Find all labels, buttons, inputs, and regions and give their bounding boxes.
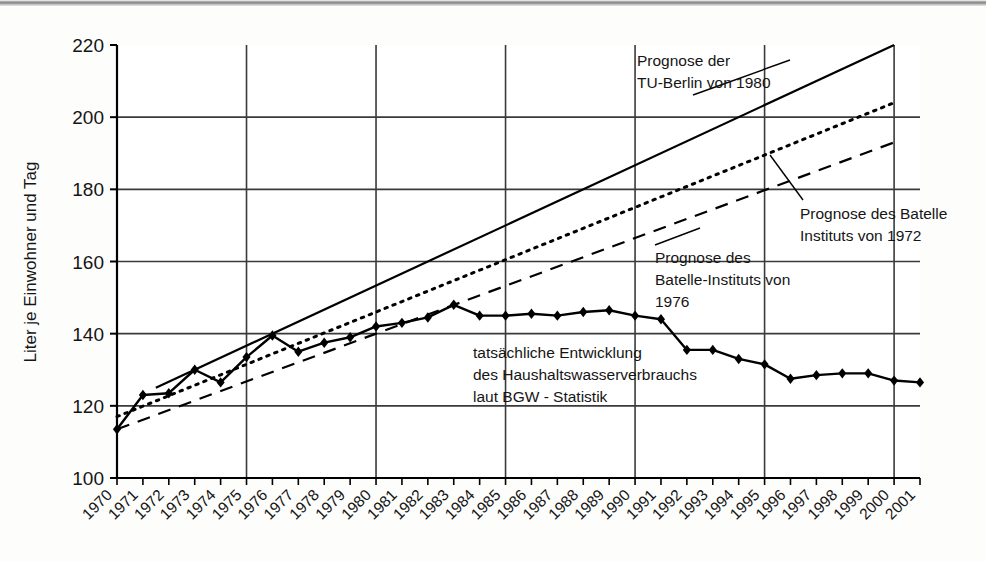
y-axis-title: Liter je Einwohner und Tag — [21, 162, 40, 363]
y-tick-label-160: 160 — [72, 252, 104, 273]
annotation-batelle-1976-line-2: Batelle-Instituts von — [655, 271, 790, 288]
y-tick-label-100: 100 — [72, 468, 104, 489]
x-tick-label-2001: 2001 — [882, 486, 918, 522]
annotation-actual-line-2: des Haushaltswasserverbrauchs — [473, 366, 697, 383]
annotation-tu-berlin-line-1: Prognose der — [637, 52, 730, 69]
annotation-batelle-1972-line-2: Instituts von 1972 — [800, 227, 922, 244]
annotation-batelle-1976-line-1: Prognose des — [655, 249, 751, 266]
y-tick-label-140: 140 — [72, 324, 104, 345]
y-tick-label-120: 120 — [72, 396, 104, 417]
water-consumption-line-chart: 100120140160180200220 197019711972197319… — [0, 0, 986, 562]
annotation-actual-line-1: tatsächliche Entwicklung — [473, 344, 642, 361]
chart-page: 100120140160180200220 197019711972197319… — [0, 0, 986, 562]
y-tick-label-200: 200 — [72, 107, 104, 128]
y-axis-tick-labels: 100120140160180200220 — [72, 35, 104, 489]
annotation-tu-berlin-line-2: TU-Berlin von 1980 — [637, 74, 771, 91]
y-tick-label-180: 180 — [72, 179, 104, 200]
annotation-actual-line-3: laut BGW - Statistik — [473, 388, 608, 405]
x-axis-tick-labels: 1970197119721973197419751976197719781979… — [79, 486, 918, 523]
annotation-batelle-1972-line-1: Prognose des Batelle — [800, 205, 947, 222]
y-tick-label-220: 220 — [72, 35, 104, 56]
annotation-batelle-1976-line-3: 1976 — [655, 293, 689, 310]
